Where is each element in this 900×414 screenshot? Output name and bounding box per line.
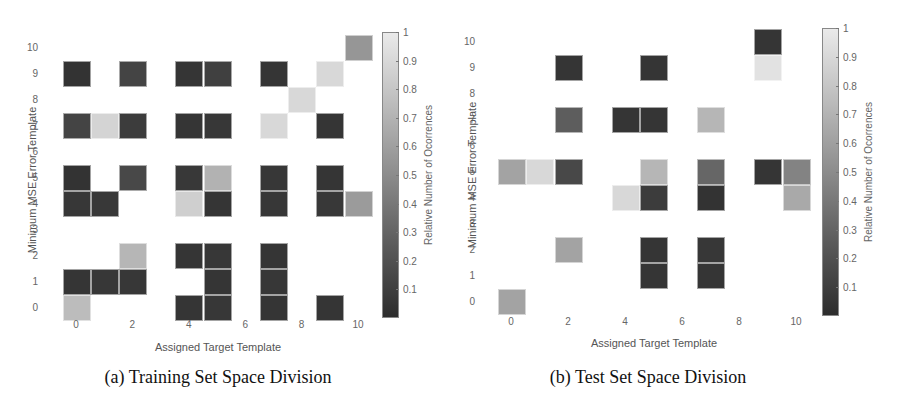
heatmap-cell (555, 107, 583, 133)
colorbar-tick-mark (836, 258, 839, 259)
colorbar-tick-label: 1 (843, 23, 849, 34)
heatmap-cell (783, 159, 811, 185)
x-tick-label: 4 (622, 316, 628, 327)
heatmap-cell (640, 263, 668, 289)
colorbar-tick-mark (836, 57, 839, 58)
heatmap-cell (640, 159, 668, 185)
heatmap-cell (555, 237, 583, 263)
heatmap-cell (555, 159, 583, 185)
x-axis-label: Assigned Target Template (591, 337, 717, 349)
heatmap-cell (640, 107, 668, 133)
heatmap-cell (498, 159, 526, 185)
heatmap-cell (640, 185, 668, 211)
y-tick-label: 10 (455, 36, 475, 47)
heatmap-cell (697, 263, 725, 289)
heatmap-cell (754, 159, 782, 185)
heatmap-cell (555, 55, 583, 81)
heatmap-cell (697, 159, 725, 185)
colorbar-tick-label: 0.7 (843, 109, 857, 120)
colorbar-tick-mark (836, 230, 839, 231)
y-tick-label: 9 (455, 62, 475, 73)
heatmap-cell (754, 55, 782, 81)
x-tick-label: 8 (736, 316, 742, 327)
heatmap-cell (612, 107, 640, 133)
heatmap-cell (754, 29, 782, 55)
heatmap-cell (783, 185, 811, 211)
x-tick-label: 0 (508, 316, 514, 327)
x-tick-label: 10 (790, 316, 801, 327)
colorbar-tick-mark (836, 86, 839, 87)
heatmap-cell (612, 185, 640, 211)
heatmap-plot-area (497, 28, 811, 314)
colorbar-tick-mark (836, 201, 839, 202)
y-axis-label: Minimum MSE Error Template (466, 102, 478, 249)
caption-test: (b) Test Set Space Division (550, 367, 746, 388)
heatmap-cell (640, 237, 668, 263)
y-tick-label: 8 (455, 88, 475, 99)
heatmap-cell (640, 55, 668, 81)
colorbar-tick-mark (836, 287, 839, 288)
x-tick-label: 6 (679, 316, 685, 327)
y-tick-label: 0 (455, 296, 475, 307)
colorbar-label: Relative Number of Ocorrences (863, 102, 874, 242)
colorbar-tick-mark (836, 143, 839, 144)
y-tick-label: 1 (455, 270, 475, 281)
heatmap-cell (697, 237, 725, 263)
colorbar-tick-label: 0.5 (843, 167, 857, 178)
colorbar-tick-label: 0.8 (843, 80, 857, 91)
colorbar-tick-label: 0.6 (843, 138, 857, 149)
heatmap-cell (526, 159, 554, 185)
colorbar-tick-label: 0.2 (843, 253, 857, 264)
heatmap-cell (697, 107, 725, 133)
colorbar-tick-mark (836, 28, 839, 29)
colorbar-tick-label: 0.1 (843, 282, 857, 293)
colorbar-tick-mark (836, 114, 839, 115)
colorbar-tick-label: 0.4 (843, 195, 857, 206)
x-tick-label: 2 (565, 316, 571, 327)
colorbar-tick-mark (836, 172, 839, 173)
colorbar-tick-label: 0.3 (843, 224, 857, 235)
heatmap-cell (498, 289, 526, 315)
colorbar-tick-label: 0.9 (843, 51, 857, 62)
panel-test: 012345678910 0246810 Assigned Target Tem… (0, 0, 900, 414)
heatmap-cell (697, 185, 725, 211)
